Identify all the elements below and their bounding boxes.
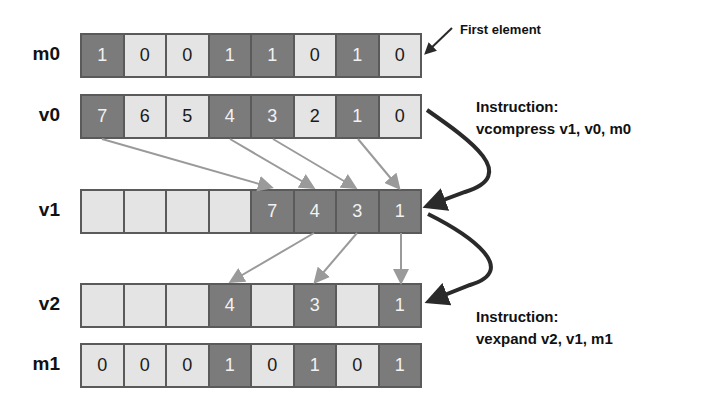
arrow-3 bbox=[273, 139, 354, 187]
expand-arrows bbox=[232, 233, 401, 281]
arrow-4 bbox=[232, 233, 314, 281]
arrow-3 bbox=[316, 233, 357, 281]
compress-arrows bbox=[102, 139, 398, 187]
arrow-7 bbox=[102, 139, 270, 187]
arrow-1 bbox=[358, 139, 398, 187]
arrows-layer bbox=[0, 0, 705, 407]
vcompress-flow-arrow-icon bbox=[427, 110, 489, 205]
vexpand-flow-arrow-icon bbox=[428, 214, 491, 300]
first-element-pointer-icon bbox=[427, 28, 452, 52]
